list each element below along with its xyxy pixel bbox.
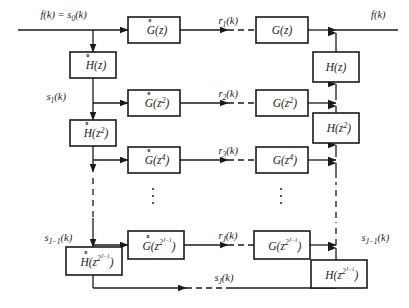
label-input: f(k) = s0(k) <box>22 9 100 23</box>
label-output: f(k) <box>371 9 386 21</box>
block-diagram: G(z) ∘ G(z2) ∘ G(z4) ∘ G(z2J−1) ∘ H(z) ∘… <box>0 0 409 308</box>
ring-icon-h2: ∘ <box>84 119 90 129</box>
label-g-z: G(z) <box>272 24 293 37</box>
label-g-ring-z2J1: G(z2J−1) <box>121 237 190 253</box>
label-sJm1-left: sJ−1(k) <box>26 232 85 246</box>
ring-icon-g2: ∘ <box>146 89 152 99</box>
ellipsis-dot-right-1 <box>280 188 282 190</box>
figure-canvas: G(z) ∘ G(z2) ∘ G(z4) ∘ G(z2J−1) ∘ H(z) ∘… <box>0 0 409 308</box>
ring-icon-g1: ∘ <box>147 16 153 26</box>
label-g-ring-z2: G(z2) <box>124 96 184 110</box>
label-s1: s1(k) <box>28 91 79 105</box>
label-sJ: sJ(k) <box>196 272 247 286</box>
label-g-z2J1: G(z2J−1) <box>248 237 316 253</box>
ellipsis-dot-mid-1 <box>152 188 154 190</box>
label-h-ring-z2J1: H(z2J−1) <box>59 253 128 269</box>
ellipsis-dot-right-2 <box>280 195 282 197</box>
label-r2: r2(k) <box>200 88 251 102</box>
ellipsis-dot-right-3 <box>280 202 282 204</box>
label-h-z2: H(z2) <box>307 121 366 135</box>
label-sJm1-right: sJ−1(k) <box>343 232 402 246</box>
label-r1: r1(k) <box>200 15 251 29</box>
label-g-z2: G(z2) <box>253 96 312 110</box>
label-g-ring-z: G(z) <box>126 23 182 37</box>
ring-icon-h1: ∘ <box>85 51 91 61</box>
label-h-z: H(z) <box>325 61 347 74</box>
ring-icon-g4: ∘ <box>145 232 151 242</box>
ring-icon-h3: ∘ <box>83 248 89 258</box>
ellipsis-group <box>152 188 282 204</box>
label-rJ: rJ(k) <box>200 230 251 244</box>
ring-icon-g3: ∘ <box>146 146 152 156</box>
ellipsis-dot-mid-3 <box>152 202 154 204</box>
label-r3: r3(k) <box>200 145 251 159</box>
label-h-ring-z: H(z) <box>65 58 121 72</box>
label-h-ring-z2: H(z2) <box>63 126 123 140</box>
ellipsis-dot-mid-2 <box>152 195 154 197</box>
label-h-z2J1: H(z2J−1) <box>305 266 373 282</box>
label-g-ring-z4: G(z4) <box>124 153 184 167</box>
label-g-z4: G(z4) <box>253 153 312 167</box>
